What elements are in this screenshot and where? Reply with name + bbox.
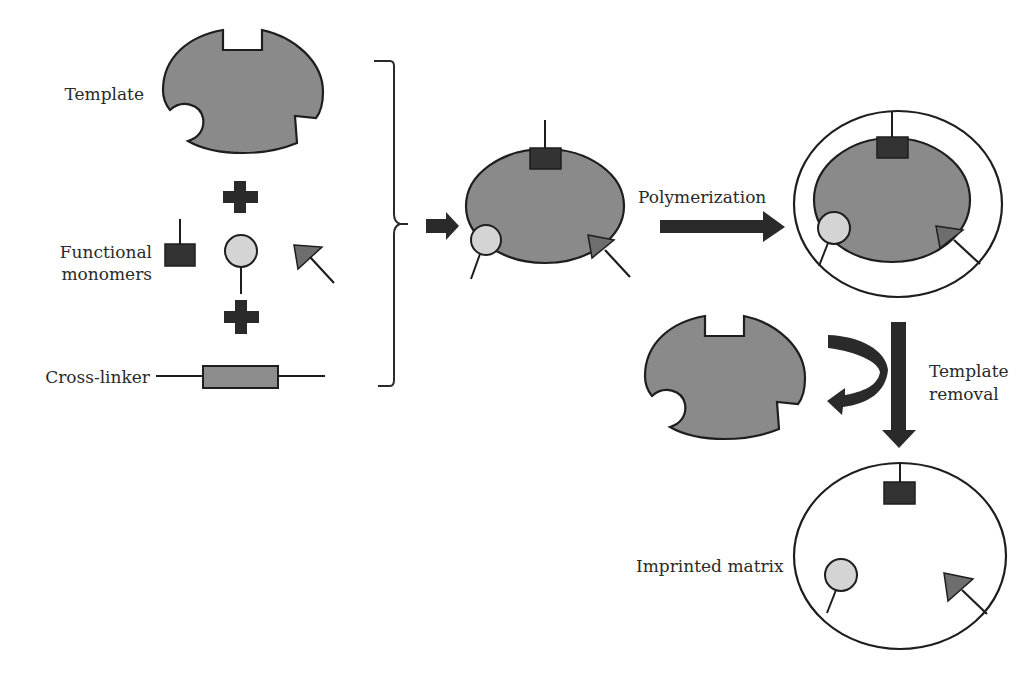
square-monomer-icon [165, 219, 195, 266]
curved-arrow-icon [827, 335, 888, 415]
plus-icon [224, 300, 259, 334]
diagram-canvas [0, 0, 1035, 682]
brace-bracket [374, 61, 408, 386]
released-template [645, 316, 805, 439]
polymerized-matrix [794, 111, 1002, 297]
template-label: Template [40, 83, 144, 105]
template-shape [163, 30, 323, 153]
template-removal-arrow [882, 322, 916, 448]
triangle-monomer-icon [294, 245, 334, 283]
polymerization-label: Polymerization [638, 186, 766, 208]
functional-monomers-label-line1: Functional [30, 241, 152, 263]
functional-monomers-label-line2: monomers [30, 263, 152, 285]
template-monomer-complex [466, 120, 630, 279]
imprinted-matrix [794, 463, 1006, 649]
circle-monomer-icon [225, 235, 257, 294]
arrow-right-icon [426, 212, 459, 240]
template-removal-label-line2: removal [929, 383, 999, 405]
template-removal-label-line1: Template [929, 360, 1009, 382]
cross-linker-icon [156, 366, 325, 388]
cross-linker-label: Cross-linker [20, 366, 150, 388]
imprinted-matrix-label: Imprinted matrix [636, 555, 784, 577]
plus-icon [223, 181, 258, 213]
polymerization-arrow [660, 211, 785, 242]
molecular-imprinting-diagram: Template Functional monomers Cross-linke… [0, 0, 1035, 682]
